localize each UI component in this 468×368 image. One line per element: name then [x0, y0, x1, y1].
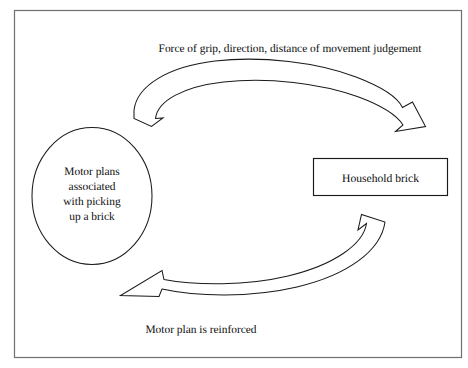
motor-plans-label-line-1: Motor plans — [64, 166, 120, 178]
top-curved-arrow-shape — [134, 59, 426, 131]
bottom-curved-arrow-shape — [121, 215, 386, 297]
diagram-canvas: Force of grip, direction, distance of mo… — [0, 0, 468, 368]
cycle-diagram-svg: Force of grip, direction, distance of mo… — [0, 0, 468, 368]
motor-plans-label-line-2: associated — [69, 181, 116, 193]
top-arrow-caption: Force of grip, direction, distance of mo… — [159, 43, 423, 55]
household-brick-label: Household brick — [342, 172, 419, 185]
motor-plans-label-line-3: with picking — [63, 196, 121, 208]
motor-plans-label-line-4: up a brick — [69, 211, 115, 223]
bottom-arrow-caption: Motor plan is reinforced — [145, 324, 256, 336]
